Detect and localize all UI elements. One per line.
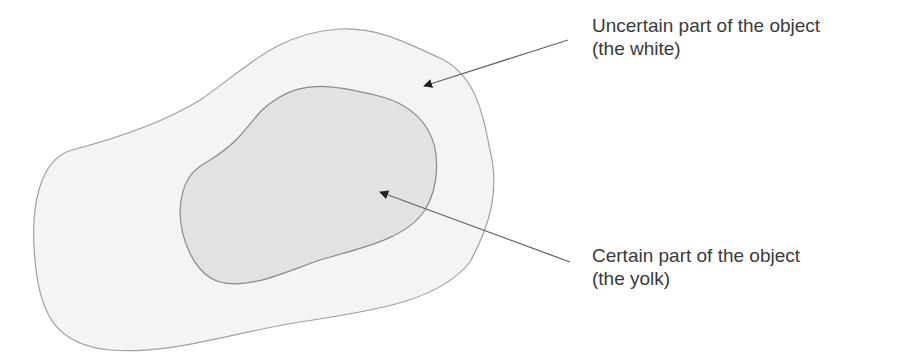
- certain-label-line2: (the yolk): [592, 267, 800, 290]
- uncertain-label-line1: Uncertain part of the object: [592, 14, 820, 37]
- uncertain-label: Uncertain part of the object (the white): [592, 14, 820, 60]
- certain-label: Certain part of the object (the yolk): [592, 244, 800, 290]
- uncertain-label-line2: (the white): [592, 37, 820, 60]
- certain-label-line1: Certain part of the object: [592, 244, 800, 267]
